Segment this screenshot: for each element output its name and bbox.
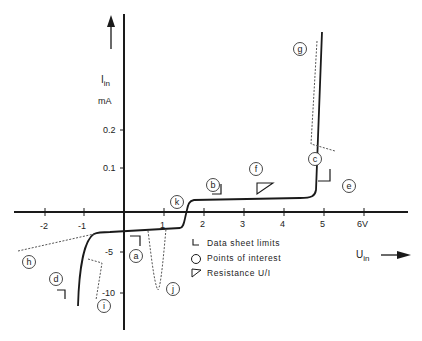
x-tick-label: 5	[320, 219, 325, 229]
marker-f: f	[250, 163, 263, 176]
y-tick-label: 0.2	[103, 125, 116, 135]
svg-text:c: c	[313, 154, 318, 164]
x-tick-label: -2	[40, 221, 48, 231]
iv-characteristic-diagram: Iin mA 0.2 0.1 -5 -10 -2 -1 1 2 3 4 5 6V…	[0, 0, 422, 341]
svg-text:Data sheet limits: Data sheet limits	[207, 238, 280, 248]
x-tick-label: 6V	[357, 219, 368, 229]
y-axis-label: Iin mA	[98, 74, 112, 106]
marker-h: h	[23, 256, 36, 269]
x-tick-label: -1	[78, 221, 86, 231]
axes	[14, 14, 408, 330]
marker-k: k	[171, 196, 184, 209]
svg-text:d: d	[53, 274, 58, 284]
marker-i: i	[98, 300, 111, 313]
dotted-curve-h	[18, 234, 94, 251]
svg-text:g: g	[297, 44, 302, 54]
svg-text:k: k	[175, 197, 180, 207]
y-axis-unit: mA	[98, 96, 112, 106]
marker-a: a	[130, 250, 143, 263]
svg-text:Resistance U/I: Resistance U/I	[207, 268, 271, 278]
points-of-interest: a b c d e f g h	[23, 43, 356, 313]
y-tick-label: 0.1	[103, 163, 116, 173]
svg-text:j: j	[171, 284, 174, 294]
x-tick-label: 4	[280, 219, 285, 229]
data-sheet-limits	[57, 169, 330, 299]
svg-text:a: a	[133, 251, 138, 261]
marker-j: j	[167, 283, 180, 296]
x-tick-label: 2	[200, 219, 205, 229]
marker-b: b	[207, 179, 220, 192]
svg-text:Points of interest: Points of interest	[207, 253, 281, 263]
svg-text:b: b	[210, 180, 215, 190]
svg-text:i: i	[103, 301, 105, 311]
triangle-icon	[192, 269, 201, 277]
svg-text:e: e	[346, 181, 351, 191]
y-axis-label-sub: in	[104, 79, 110, 88]
limit-bracket-d-icon	[57, 290, 65, 299]
limit-bracket-a-icon	[130, 236, 140, 246]
x-axis-label-sub: in	[363, 254, 369, 263]
corner-bracket-icon	[193, 239, 199, 245]
dotted-curve-j	[148, 229, 166, 290]
marker-d: d	[50, 273, 63, 286]
dotted-curve-g	[311, 41, 335, 151]
circle-icon	[192, 255, 201, 264]
x-axis-label-main: U	[356, 249, 363, 260]
svg-text:h: h	[26, 257, 31, 267]
legend-item-data-sheet-limits: Data sheet limits	[193, 238, 280, 248]
x-axis-arrow-icon	[381, 251, 411, 259]
svg-text:Uin: Uin	[356, 249, 369, 263]
dotted-curves	[18, 41, 335, 300]
y-tick-label: -5	[105, 247, 113, 257]
y-axis-arrow-icon	[107, 15, 115, 49]
x-tick-label: 3	[240, 219, 245, 229]
legend-item-resistance: Resistance U/I	[192, 268, 271, 278]
marker-g: g	[294, 43, 307, 56]
marker-e: e	[343, 180, 356, 193]
marker-c: c	[309, 153, 322, 166]
legend-item-points-of-interest: Points of interest	[192, 253, 282, 264]
legend: Data sheet limits Points of interest Res…	[192, 238, 282, 278]
y-tick-label: -10	[102, 288, 115, 298]
dotted-curve-i	[88, 259, 102, 300]
resistance-triangle-icon	[257, 183, 273, 194]
svg-text:Iin: Iin	[101, 74, 110, 88]
x-axis-label: Uin	[356, 249, 369, 263]
limit-bracket-c-icon	[318, 169, 330, 181]
